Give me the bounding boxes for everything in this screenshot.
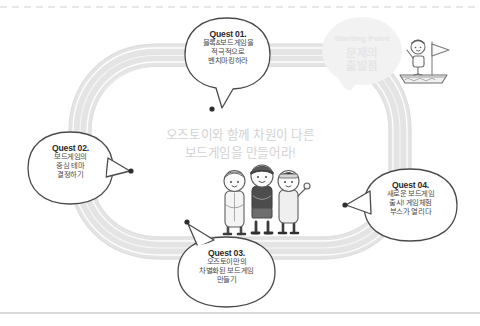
quest-01-bubble[interactable] xyxy=(185,18,270,112)
character-center xyxy=(251,165,273,233)
starting-point-label-kr-line2: 출발점 xyxy=(322,57,402,73)
quest-03-bubble[interactable] xyxy=(178,219,275,307)
illustration-svg xyxy=(0,0,480,326)
infographic-canvas: Starting Point 문제의 출발점 오즈토이와 함께 차원이 다른 보… xyxy=(0,0,480,326)
center-slogan-line-2: 보드게임을 만들어라! xyxy=(130,142,350,161)
center-slogan-line-1: 오즈토이와 함께 차원이 다른 xyxy=(130,124,350,143)
quest-02-bubble[interactable] xyxy=(28,132,134,204)
character-right xyxy=(278,171,310,234)
character-group xyxy=(224,165,310,234)
flag-bearer-on-boat xyxy=(400,40,449,83)
character-left xyxy=(224,171,245,235)
starting-point-label-en: Starting Point xyxy=(322,34,402,43)
